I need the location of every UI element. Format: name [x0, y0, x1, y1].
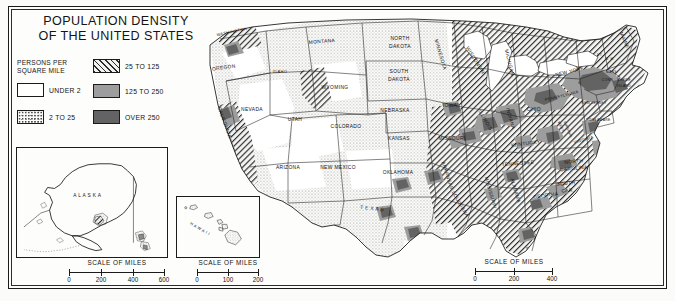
state-label: NEW MEXICO	[320, 165, 356, 170]
state-label: NEBRASKA	[380, 108, 410, 113]
state-label: VT.	[597, 53, 603, 57]
state-label: ARIZONA	[276, 165, 301, 170]
legend-swatch-2-to-25	[17, 110, 44, 124]
state-label: NEVADA	[241, 107, 263, 112]
legend-label-25-to-125: 25 TO 125	[125, 63, 160, 70]
scale-alaska-title: SCALE OF MILES	[58, 259, 176, 266]
state-label: CAR.	[561, 188, 574, 194]
page-title: POPULATION DENSITY OF THE UNITED STATES	[18, 14, 214, 44]
legend-label-125-to-250: 125 TO 250	[125, 88, 164, 95]
legend-item-over-250: OVER 250	[93, 110, 160, 124]
state-label: UTAH	[288, 117, 302, 122]
legend-heading-line-2: SQUARE MILE	[17, 67, 67, 75]
state-label: DAKOTA	[389, 44, 411, 49]
state-label: MISSOURI	[439, 136, 466, 141]
state-label: NEW JERSEY	[582, 101, 607, 105]
state-label: N. H.	[605, 57, 614, 61]
legend-swatch-125-to-250	[93, 84, 120, 98]
legend-label-over-250: OVER 250	[125, 114, 160, 121]
scale-alaska: SCALE OF MILES 0 200 400 600	[58, 259, 176, 285]
state-label: OKLAHOMA	[383, 170, 414, 175]
state-label: MASS.	[606, 70, 618, 74]
state-label: SOUTH	[390, 69, 409, 74]
alaska-inset-label: A L A S K A	[73, 193, 101, 198]
scale-alaska-tick-0: 0	[67, 276, 71, 283]
legend-heading-line-1: PERSONS PER	[17, 59, 67, 67]
legend-item-25-to-125: 25 TO 125	[93, 59, 160, 73]
map-page: POPULATION DENSITY OF THE UNITED STATES …	[0, 0, 675, 301]
state-label: RHODE	[617, 78, 631, 82]
legend-swatch-under-2	[17, 83, 44, 97]
legend-swatch-over-250	[93, 110, 120, 124]
scale-alaska-tick-1: 200	[96, 276, 107, 283]
state-label: NORTH	[390, 36, 409, 41]
legend-heading: PERSONS PER SQUARE MILE	[17, 59, 67, 76]
legend-item-125-to-250: 125 TO 250	[93, 84, 164, 98]
scale-alaska-tick-2: 400	[128, 276, 139, 283]
state-label: DELAWARE	[589, 118, 611, 122]
state-label: CONN.	[602, 78, 614, 82]
state-label: OHIO	[527, 107, 541, 112]
legend-label-2-to-25: 2 TO 25	[49, 114, 75, 121]
state-label: DAKOTA	[388, 77, 410, 82]
title-line-2: OF THE UNITED STATES	[18, 29, 214, 44]
state-label: IDAHO	[273, 69, 287, 74]
state-label: IOWA	[443, 103, 458, 108]
scale-alaska-tick-3: 600	[159, 276, 170, 283]
legend-item-under-2: UNDER 2	[17, 83, 81, 97]
legend-swatch-25-to-125	[93, 59, 120, 73]
legend-item-2-to-25: 2 TO 25	[17, 110, 75, 124]
title-line-1: POPULATION DENSITY	[18, 14, 214, 29]
state-label: ISLAND	[617, 84, 631, 88]
main-map-united-states: WASHINGTONOREGONIDAHOMONTANAWYOMINGNEVAD…	[196, 11, 664, 283]
legend-label-under-2: UNDER 2	[49, 87, 81, 94]
state-label: COLORADO	[331, 124, 362, 129]
alaska-inset-map: A L A S K A	[16, 147, 168, 258]
state-label: KANSAS	[388, 136, 410, 141]
state-label: WYOMING	[322, 85, 349, 90]
